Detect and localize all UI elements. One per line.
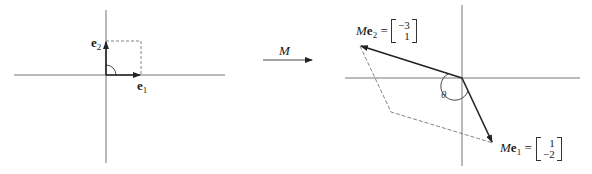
label-e1: e1	[137, 79, 147, 92]
Me2-equals: =	[380, 23, 387, 38]
e1-letter: e	[137, 78, 143, 93]
matrix-Me2: −3 1	[391, 19, 417, 43]
e2-subscript: 2	[97, 42, 102, 52]
Me1-M: M	[500, 140, 511, 155]
right-angle-arc	[106, 65, 116, 75]
Me2-subscript: 2	[373, 30, 378, 40]
e1-subscript: 1	[143, 85, 148, 95]
Me2-M: M	[356, 23, 367, 38]
label-Me1: Me1 =	[500, 141, 532, 154]
matrix-Me1: 1 −2	[536, 137, 562, 161]
unit-square-dashed	[106, 41, 141, 75]
Me1-y: −2	[543, 149, 555, 160]
vector-Me2	[361, 46, 462, 78]
Me1-e: e	[511, 140, 517, 155]
e2-letter: e	[91, 35, 97, 50]
left-axes	[14, 10, 225, 163]
label-e2: e2	[91, 36, 101, 49]
label-M: M	[279, 44, 290, 57]
label-Me2: Me2 =	[356, 24, 388, 37]
Me1-equals: =	[524, 140, 531, 155]
parallelogram-dashed	[360, 46, 493, 143]
Me1-subscript: 1	[517, 147, 522, 157]
Me2-e: e	[367, 23, 373, 38]
label-theta: θ	[441, 89, 446, 100]
Me2-y: 1	[404, 31, 410, 42]
vector-Me1	[462, 78, 492, 142]
